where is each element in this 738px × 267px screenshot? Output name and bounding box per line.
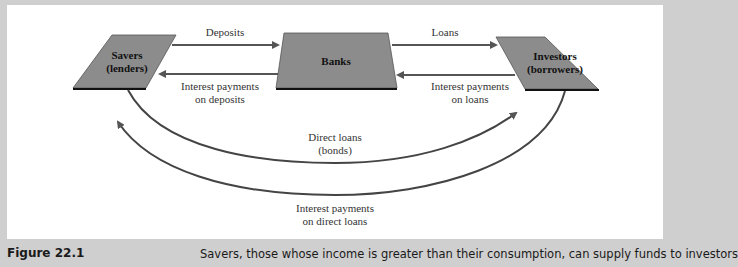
deposits-label: Deposits [190,26,260,39]
investors-label: Investors (borrowers) [515,50,595,76]
figure-caption: Savers, those whose income is greater th… [200,247,738,261]
savers-label: Savers (lenders) [92,49,162,75]
interest-direct-label: Interest payments on direct loans [280,202,390,228]
loans-label: Loans [420,26,470,39]
banks-label: Banks [300,55,372,68]
figure-number: Figure 22.1 [7,246,84,260]
interest-deposits-label: Interest payments on deposits [165,80,275,106]
interest-loans-label: Interest payments on loans [415,80,525,106]
direct-loans-label: Direct loans (bonds) [290,131,380,157]
caption-bar: Figure 22.1 Savers, those whose income i… [0,240,670,267]
